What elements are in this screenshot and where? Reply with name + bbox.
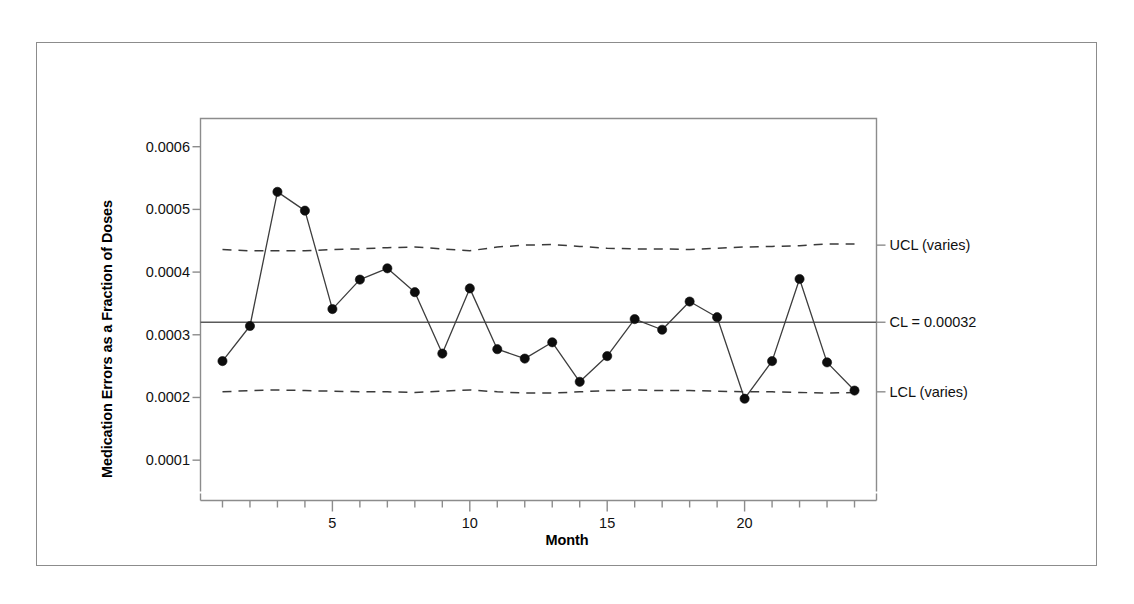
data-point-marker [767, 357, 776, 366]
x-axis-tick-label: 5 [328, 515, 336, 531]
data-line [222, 192, 854, 399]
x-axis-tick-label: 20 [737, 515, 753, 531]
y-axis-tick-label: 0.0006 [118, 139, 190, 155]
data-point-marker [630, 315, 639, 324]
data-point-marker [822, 358, 831, 367]
data-point-marker [410, 288, 419, 297]
data-point-marker [438, 349, 447, 358]
control-chart: Medication Errors as a Fraction of Doses… [0, 0, 1134, 604]
data-point-marker [355, 275, 364, 284]
lcl-line [222, 390, 854, 393]
lcl-annotation-label: LCL (varies) [890, 384, 968, 400]
data-point-marker [713, 313, 722, 322]
data-point-marker [300, 206, 309, 215]
data-point-marker [685, 297, 694, 306]
y-axis-tick-label: 0.0001 [118, 452, 190, 468]
data-point-marker [575, 377, 584, 386]
data-point-marker [245, 321, 254, 330]
data-point-marker [328, 304, 337, 313]
y-axis-tick-label: 0.0004 [118, 264, 190, 280]
data-point-marker [273, 187, 282, 196]
data-point-marker [218, 357, 227, 366]
chart-page: Medication Errors as a Fraction of Doses… [0, 0, 1134, 604]
data-point-marker [465, 284, 474, 293]
cl-annotation-label: CL = 0.00032 [890, 314, 977, 330]
data-point-marker [383, 264, 392, 273]
data-point-marker [548, 338, 557, 347]
data-point-marker [520, 354, 529, 363]
data-point-marker [603, 351, 612, 360]
x-axis-title: Month [0, 532, 1134, 548]
data-point-marker [795, 274, 804, 283]
ucl-annotation-label: UCL (varies) [890, 237, 971, 253]
data-point-marker [850, 386, 859, 395]
chart-canvas [0, 0, 1134, 604]
ucl-line [222, 244, 854, 251]
x-axis-tick-label: 15 [599, 515, 615, 531]
y-axis-tick-label: 0.0003 [118, 327, 190, 343]
y-axis-tick-label: 0.0002 [118, 389, 190, 405]
data-point-marker [740, 394, 749, 403]
data-point-marker [493, 345, 502, 354]
x-axis-tick-label: 10 [462, 515, 478, 531]
plot-frame [201, 119, 877, 492]
data-point-marker [658, 325, 667, 334]
y-axis-tick-label: 0.0005 [118, 201, 190, 217]
y-axis-title: Medication Errors as a Fraction of Doses [99, 200, 115, 478]
